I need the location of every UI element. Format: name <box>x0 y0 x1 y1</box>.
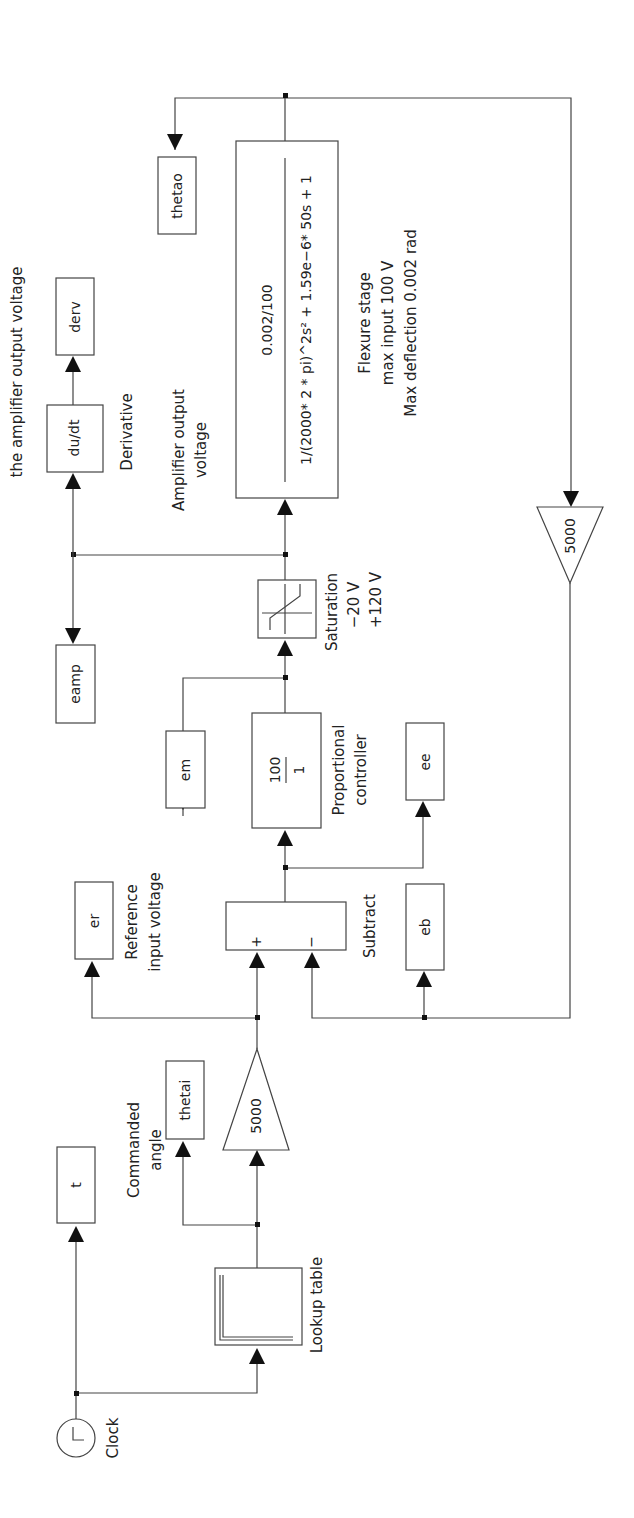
t-output-label: t <box>68 1182 84 1188</box>
subtract-label: Subtract <box>361 894 379 958</box>
er-output-block[interactable]: er <box>75 882 113 959</box>
derv-output-label: derv <box>67 301 83 333</box>
controller-denominator: 1 <box>291 766 307 775</box>
subtract-block[interactable]: + − Subtract <box>226 894 379 958</box>
derivative-block[interactable]: du/dt Derivative <box>47 393 136 472</box>
eb-output-label: eb <box>417 918 433 936</box>
flexure-stage-block[interactable]: 0.002/100 1/(2000* 2 * pi)^2s² + 1.59e−6… <box>236 141 420 498</box>
thetai-output-label: thetai <box>177 1080 193 1121</box>
flexure-denominator: 1/(2000* 2 * pi)^2s² + 1.59e−6* 50s + 1 <box>298 175 314 465</box>
reference-label-1: Reference <box>123 884 141 960</box>
block-diagram-canvas: the amplifier output voltage <box>0 0 634 1518</box>
em-output-block[interactable]: em <box>166 731 205 808</box>
eamp-output-label: eamp <box>67 664 83 704</box>
amplifier-output-label-1: Amplifier output <box>170 389 188 511</box>
wire-lookup-out <box>175 1141 265 1268</box>
thetao-output-label: thetao <box>169 173 185 219</box>
ee-output-block[interactable]: ee <box>406 723 444 800</box>
feedback-gain-value: 5000 <box>562 518 578 554</box>
controller-label-2: controller <box>352 733 370 805</box>
em-output-label: em <box>177 759 193 781</box>
thetao-output-block[interactable]: thetao <box>158 157 196 234</box>
commanded-angle-label-2: angle <box>147 1129 165 1171</box>
reference-label-2: input voltage <box>146 872 164 971</box>
lookup-table-label: Lookup table <box>308 1257 326 1353</box>
proportional-controller-block[interactable]: 100 1 Proportional controller <box>252 713 370 828</box>
subtract-minus-sign: − <box>303 936 319 948</box>
ee-output-label: ee <box>417 753 433 770</box>
wire-gain-out <box>84 952 265 1049</box>
flexure-label-1: Flexure stage <box>356 272 374 374</box>
feedback-gain-block[interactable]: 5000 <box>537 507 603 583</box>
controller-numerator: 100 <box>267 757 283 784</box>
eamp-output-block[interactable]: eamp <box>56 645 95 723</box>
amplifier-output-annotation: the amplifier output voltage <box>8 267 26 478</box>
derivative-expression: du/dt <box>66 419 82 456</box>
derv-output-block[interactable]: derv <box>56 278 94 355</box>
amplifier-output-label-2: voltage <box>192 422 210 478</box>
saturation-upper-limit: +120 V <box>367 571 385 628</box>
saturation-lower-limit: −20 V <box>345 581 363 628</box>
clock-label: Clock <box>104 1417 122 1458</box>
input-gain-block[interactable]: 5000 <box>223 1049 289 1150</box>
subtract-plus-sign: + <box>248 936 264 948</box>
saturation-block[interactable]: Saturation −20 V +120 V <box>258 571 385 651</box>
controller-label-1: Proportional <box>330 725 348 816</box>
t-output-block[interactable]: t <box>57 1147 95 1223</box>
clock-block[interactable]: Clock <box>57 1417 122 1458</box>
wire-derivative-out <box>65 356 81 405</box>
thetai-output-block[interactable]: thetai <box>166 1061 204 1139</box>
flexure-label-2: max input 100 V <box>379 260 397 385</box>
lookup-table-block[interactable]: Lookup table <box>215 1257 326 1353</box>
input-gain-value: 5000 <box>248 1098 264 1134</box>
flexure-numerator: 0.002/100 <box>259 284 275 356</box>
derivative-label: Derivative <box>118 393 136 470</box>
commanded-angle-label-1: Commanded <box>125 1102 143 1198</box>
saturation-label: Saturation <box>323 573 341 651</box>
flexure-label-3: Max deflection 0.002 rad <box>402 229 420 417</box>
er-output-label: er <box>86 914 102 929</box>
eb-output-block[interactable]: eb <box>406 884 444 970</box>
